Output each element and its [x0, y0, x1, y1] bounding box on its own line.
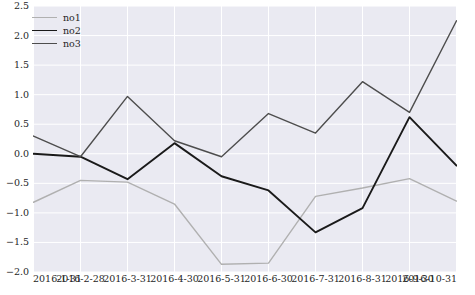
y-tick-label-5: 0.0	[0, 149, 29, 159]
legend-label: no3	[63, 39, 81, 49]
plot-svg	[33, 6, 457, 272]
line-chart-figure: 2.52.01.51.00.50.0−0.5−1.0−1.5−2.0 2016-…	[0, 0, 475, 295]
legend-item-no1: no1	[32, 11, 81, 24]
x-tick-label-9: 2016-10-31	[402, 274, 457, 284]
x-tick-label-2: 2016-3-31	[103, 274, 152, 284]
x-tick-label-6: 2016-7-31	[291, 274, 340, 284]
legend-item-no3: no3	[32, 37, 81, 50]
legend-line-swatch-no2	[32, 30, 57, 31]
plot-area	[33, 6, 457, 272]
data-series-group	[34, 21, 457, 265]
y-tick-label-3: 1.0	[0, 90, 29, 100]
chart-legend: no1no2no3	[30, 10, 83, 51]
legend-line-swatch-no3	[32, 43, 57, 44]
legend-label: no1	[63, 13, 81, 23]
x-tick-label-7: 2016-8-31	[338, 274, 387, 284]
legend-line-swatch-no1	[32, 17, 57, 18]
grid-lines	[33, 6, 457, 272]
legend-item-no2: no2	[32, 24, 81, 37]
legend-label: no2	[63, 26, 81, 36]
y-tick-label-4: 0.5	[0, 119, 29, 129]
y-tick-label-9: −2.0	[0, 267, 29, 277]
x-tick-label-3: 2016-4-30	[150, 274, 199, 284]
y-tick-label-7: −1.0	[0, 208, 29, 218]
data-line-no3	[34, 21, 457, 157]
data-line-no1	[34, 179, 457, 265]
y-tick-label-2: 1.5	[0, 60, 29, 70]
x-tick-label-1: 2016-2-28	[56, 274, 105, 284]
x-tick-label-4: 2016-5-31	[197, 274, 246, 284]
x-tick-label-5: 2016-6-30	[244, 274, 293, 284]
y-axis-tick-labels: 2.52.01.51.00.50.0−0.5−1.0−1.5−2.0	[0, 6, 29, 272]
y-tick-label-1: 2.0	[0, 31, 29, 41]
x-axis-tick-labels: 2016-1-312016-2-282016-3-312016-4-302016…	[33, 274, 457, 292]
y-tick-label-8: −1.5	[0, 238, 29, 248]
y-tick-label-6: −0.5	[0, 179, 29, 189]
y-tick-label-0: 2.5	[0, 1, 29, 11]
